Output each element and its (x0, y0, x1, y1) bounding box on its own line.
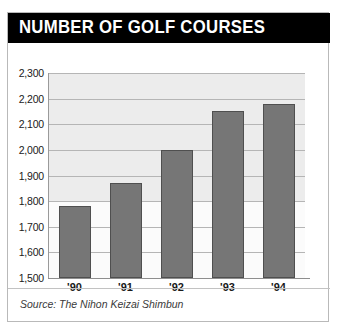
bar (110, 183, 142, 278)
y-axis-tick-label: 1,500 (8, 272, 44, 284)
chart-area: 2,3002,2002,1002,0001,9001,8001,7001,600… (8, 43, 330, 288)
y-axis-tick-label: 1,700 (8, 221, 44, 233)
chart-card: NUMBER OF GOLF COURSES 2,3002,2002,1002,… (7, 12, 329, 322)
bar (161, 150, 193, 278)
title-banner: NUMBER OF GOLF COURSES (8, 13, 330, 43)
y-axis-tick-label: 1,800 (8, 195, 44, 207)
bar (59, 206, 91, 278)
x-axis-tick-label: '90 (55, 281, 95, 293)
bar-series (49, 73, 304, 278)
x-axis-line (48, 278, 310, 279)
y-axis-tick-label: 2,300 (8, 67, 44, 79)
y-axis-tick-label: 1,600 (8, 246, 44, 258)
y-axis-tick-label: 2,000 (8, 144, 44, 156)
page-title: NUMBER OF GOLF COURSES (19, 17, 265, 38)
source-divider (8, 288, 330, 289)
x-axis-tick-label: '91 (106, 281, 146, 293)
x-axis-tick-label: '92 (157, 281, 197, 293)
y-axis-labels: 2,3002,2002,1002,0001,9001,8001,7001,600… (8, 43, 44, 288)
y-axis-tick-label: 2,200 (8, 93, 44, 105)
x-axis-tick-label: '93 (208, 281, 248, 293)
bar (263, 104, 295, 278)
x-axis-tick-label: '94 (259, 281, 299, 293)
y-axis-tick-label: 1,900 (8, 170, 44, 182)
source-name: The Nihon Keizai Shimbun (59, 298, 183, 310)
y-axis-tick-label: 2,100 (8, 118, 44, 130)
source-label: Source: (20, 298, 56, 310)
bar (212, 111, 244, 278)
source-note: Source: The Nihon Keizai Shimbun (20, 298, 183, 310)
